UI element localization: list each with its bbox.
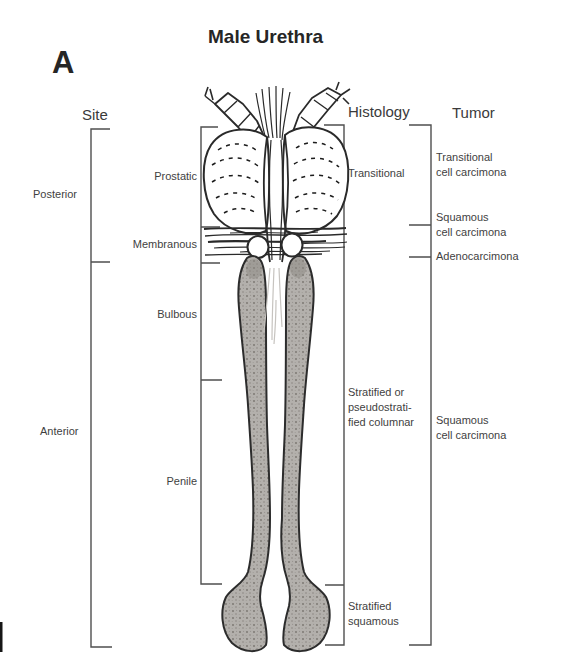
site-region-posterior: Posterior: [33, 187, 77, 202]
site-bracket: [91, 129, 112, 647]
column-header-histology: Histology: [348, 103, 410, 121]
site-segment-membranous: Membranous: [108, 237, 197, 252]
figure-title: Male Urethra: [208, 25, 323, 48]
spongiosum-left-column: [222, 256, 270, 651]
prostate: [204, 127, 349, 234]
tumor-squamous-cell-carcinoma-lower: Squamous cell carcimona: [436, 413, 506, 443]
site-segment-bulbous: Bulbous: [108, 307, 197, 322]
scan-artifact: [0, 622, 3, 652]
male-urethra-illustration: [0, 0, 570, 663]
tumor-squamous-cell-carcinoma-upper: Squamous cell carcimona: [436, 210, 506, 240]
site-region-anterior: Anterior: [40, 424, 79, 439]
panel-label: A: [52, 46, 74, 80]
column-header-site: Site: [82, 106, 108, 124]
tumor-transitional-cell-carcinoma: Transitional cell carcimona: [436, 150, 506, 180]
figure-panel: A Male Urethra Site Histology Tumor Post…: [0, 0, 570, 663]
column-header-tumor: Tumor: [452, 104, 495, 122]
tumor-adenocarcinoma: Adenocarcimona: [436, 249, 519, 264]
site-segment-penile: Penile: [108, 474, 197, 489]
site-segment-prostatic: Prostatic: [108, 169, 197, 184]
histology-stratified-columnar: Stratified or pseudostrati- fied columna…: [348, 385, 414, 430]
histology-transitional: Transitional: [348, 166, 404, 181]
spongiosum-right-column: [281, 256, 329, 651]
histology-stratified-squamous: Stratified squamous: [348, 599, 399, 629]
urogenital-diaphragm: [204, 228, 347, 255]
